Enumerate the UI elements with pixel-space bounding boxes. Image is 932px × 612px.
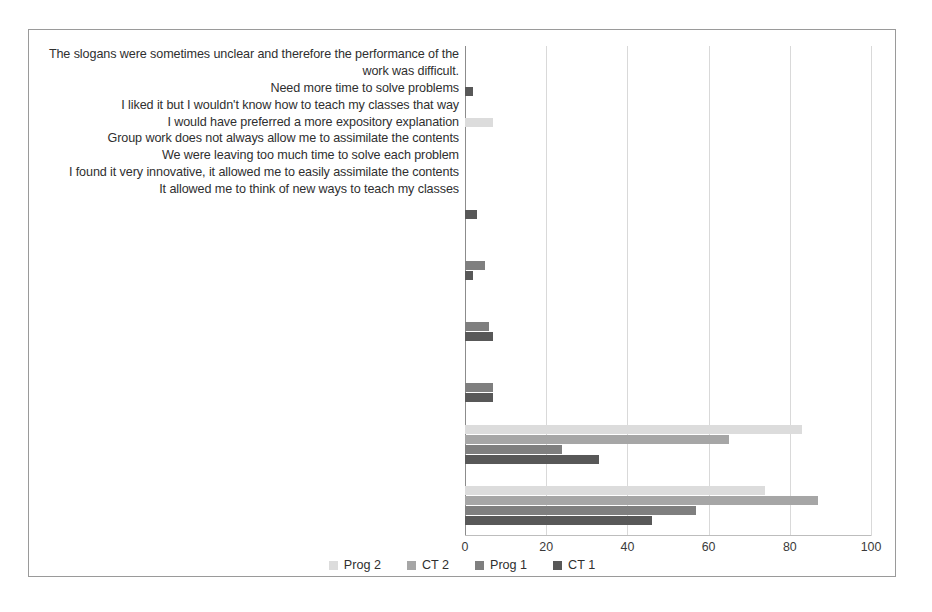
- x-axis-tick-label: 80: [783, 540, 797, 554]
- legend-swatch-icon: [553, 561, 562, 570]
- bar-prog-1: [465, 445, 562, 454]
- category-label: It allowed me to think of new ways to te…: [37, 181, 465, 198]
- category-label-text: Need more time to solve problems: [270, 80, 459, 97]
- bar-prog-2: [465, 118, 493, 127]
- bar-ct-1: [465, 271, 473, 280]
- bar-group-bars: [465, 475, 871, 536]
- bar-prog-2: [465, 425, 802, 434]
- category-label: Group work does not always allow me to a…: [37, 130, 465, 147]
- category-label-text: Group work does not always allow me to a…: [108, 130, 460, 147]
- chart-figure: The slogans were sometimes unclear and t…: [28, 29, 896, 577]
- x-axis: 020406080100: [465, 538, 871, 560]
- category-label: Need more time to solve problems: [37, 80, 465, 97]
- bar-ct-1: [465, 455, 599, 464]
- legend-swatch-icon: [329, 561, 338, 570]
- bar-group-bars: [465, 169, 871, 230]
- bar-prog-1: [465, 506, 696, 515]
- bar-group: [465, 352, 871, 413]
- chart-legend: Prog 2CT 2Prog 1CT 1: [29, 558, 895, 572]
- bar-group-bars: [465, 352, 871, 413]
- legend-item-prog-1[interactable]: Prog 1: [475, 558, 527, 572]
- category-label: I liked it but I wouldn't know how to te…: [37, 97, 465, 114]
- category-label-column: The slogans were sometimes unclear and t…: [37, 46, 465, 536]
- bar-group: [465, 230, 871, 291]
- bar-ct-2: [465, 435, 729, 444]
- bar-group-bars: [465, 414, 871, 475]
- gridline: [871, 46, 872, 536]
- category-label-text: We were leaving too much time to solve e…: [162, 147, 459, 164]
- bar-group: [465, 107, 871, 168]
- category-label: The slogans were sometimes unclear and t…: [37, 46, 465, 80]
- category-label: I found it very innovative, it allowed m…: [37, 164, 465, 181]
- legend-item-ct-2[interactable]: CT 2: [407, 558, 449, 572]
- category-label-text: It allowed me to think of new ways to te…: [159, 181, 459, 198]
- bar-prog-1: [465, 261, 485, 270]
- category-label-text: The slogans were sometimes unclear and t…: [37, 46, 459, 80]
- x-axis-tick-label: 40: [620, 540, 634, 554]
- bar-group-bars: [465, 230, 871, 291]
- category-label: I would have preferred a more expository…: [37, 114, 465, 131]
- bar-prog-1: [465, 322, 489, 331]
- bar-group-bars: [465, 46, 871, 107]
- x-axis-tick-label: 0: [462, 540, 469, 554]
- x-axis-tick-label: 100: [861, 540, 882, 554]
- bar-prog-2: [465, 486, 765, 495]
- bar-group-bars: [465, 107, 871, 168]
- category-label-text: I found it very innovative, it allowed m…: [69, 164, 459, 181]
- legend-label: Prog 2: [344, 558, 381, 572]
- bar-ct-1: [465, 210, 477, 219]
- category-label: We were leaving too much time to solve e…: [37, 147, 465, 164]
- bar-rows: [465, 46, 871, 536]
- legend-swatch-icon: [475, 561, 484, 570]
- bar-group: [465, 46, 871, 107]
- bar-group: [465, 475, 871, 536]
- plot-area: [465, 46, 871, 536]
- legend-label: Prog 1: [490, 558, 527, 572]
- bar-group: [465, 414, 871, 475]
- bar-group-bars: [465, 291, 871, 352]
- bar-group: [465, 169, 871, 230]
- bar-ct-2: [465, 496, 818, 505]
- bar-prog-1: [465, 383, 493, 392]
- bar-ct-1: [465, 332, 493, 341]
- bar-group: [465, 291, 871, 352]
- category-label-text: I liked it but I wouldn't know how to te…: [121, 97, 459, 114]
- category-label-text: I would have preferred a more expository…: [167, 114, 459, 131]
- legend-item-prog-2[interactable]: Prog 2: [329, 558, 381, 572]
- x-axis-tick-label: 60: [702, 540, 716, 554]
- legend-label: CT 1: [568, 558, 595, 572]
- bar-ct-1: [465, 87, 473, 96]
- legend-label: CT 2: [422, 558, 449, 572]
- legend-item-ct-1[interactable]: CT 1: [553, 558, 595, 572]
- legend-swatch-icon: [407, 561, 416, 570]
- bar-ct-1: [465, 516, 652, 525]
- bar-ct-1: [465, 393, 493, 402]
- x-axis-tick-label: 20: [539, 540, 553, 554]
